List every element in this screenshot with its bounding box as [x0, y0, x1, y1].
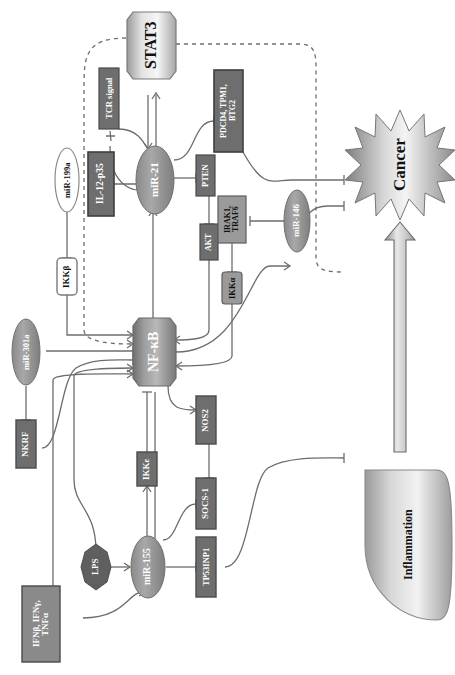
- inflammation-node-shape: [365, 470, 452, 620]
- mir146-node-shape: [284, 190, 310, 252]
- tp53inp1-node-shape: [196, 537, 216, 597]
- diagram-graphics: [0, 0, 455, 675]
- pten-node-shape: [196, 155, 215, 196]
- cancer-node-shape: [345, 110, 455, 220]
- il12p35-node-shape: [88, 152, 114, 216]
- inflammation-to-cancer-arrow: [385, 222, 415, 452]
- ikka-node-shape: [222, 272, 242, 304]
- akt-node-shape: [200, 224, 218, 260]
- mir301a-node-shape: [12, 319, 40, 385]
- tcr-node-shape: [99, 68, 119, 129]
- pdcd4-node-shape: [214, 70, 243, 152]
- ifn-node-shape: [22, 586, 60, 662]
- mir155-node-shape: [131, 536, 165, 598]
- mir199a-node-shape: [55, 148, 79, 212]
- pathway-diagram: STAT3 TCR signal PDCD4, TPM1, BTG2 miR-1…: [0, 0, 455, 675]
- nfkb-node-shape: [133, 318, 176, 386]
- edges-layer: [21, 38, 344, 618]
- mir21-node-shape: [136, 146, 174, 214]
- nkrf-node-shape: [16, 420, 36, 468]
- irak1-node-shape: [218, 196, 246, 243]
- socs1-node-shape: [196, 478, 216, 529]
- nos2-node-shape: [196, 396, 216, 444]
- ikke-node-shape: [137, 452, 157, 486]
- stat3-node-shape: [127, 12, 176, 79]
- lps-node-shape: [81, 544, 111, 590]
- ikkb-node-shape: [57, 258, 77, 295]
